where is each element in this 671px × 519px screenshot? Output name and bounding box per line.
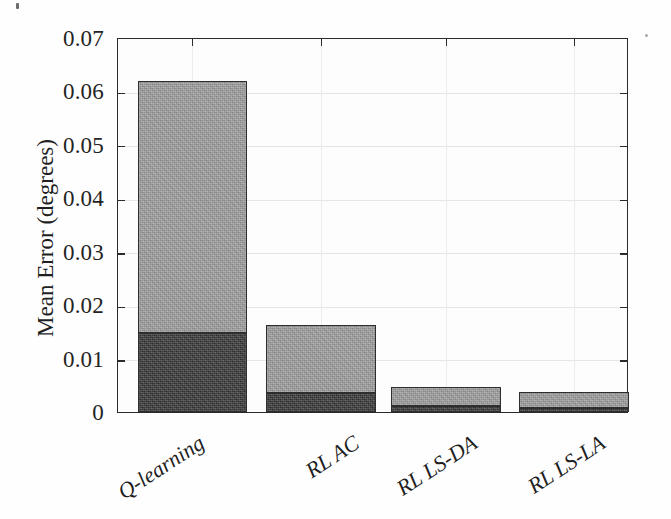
figure-canvas: Mean Error (degrees) 0.07 0.06 0.05 0.04…	[0, 0, 671, 519]
x-tick-label-q-learning: Q-learning	[82, 430, 209, 519]
x-tick-label-rl-ac: RL AC	[237, 430, 364, 519]
x-tick-label-rl-ls-la: RL LS-LA	[472, 430, 610, 519]
x-tick-label-rl-ls-da: RL LS-DA	[344, 430, 482, 519]
x-axis-tick-labels: Q-learning RL AC RL LS-DA RL LS-LA	[0, 0, 671, 519]
